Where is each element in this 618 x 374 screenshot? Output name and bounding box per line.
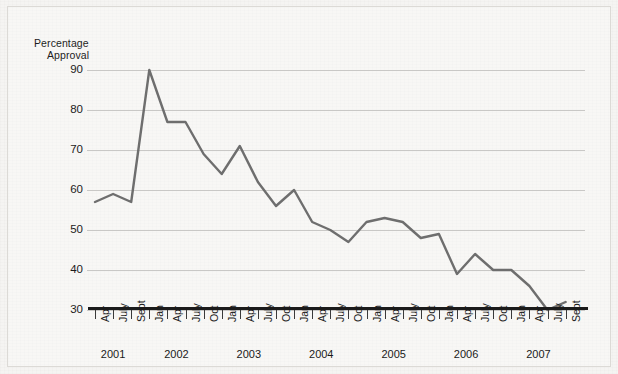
x-axis-label: Jan xyxy=(371,305,383,322)
x-axis-tick xyxy=(367,310,368,319)
x-axis-label: Apr xyxy=(99,306,111,322)
x-axis-label: July xyxy=(117,303,129,322)
x-axis-label: July xyxy=(190,303,202,322)
x-axis-tick xyxy=(385,310,386,319)
x-axis-label: July xyxy=(407,303,419,322)
x-axis-label: Oct xyxy=(497,306,509,322)
y-axis-label: 90 xyxy=(43,63,83,75)
year-label: 2005 xyxy=(381,348,405,360)
x-axis-tick xyxy=(131,310,132,319)
y-axis-label: 80 xyxy=(43,103,83,115)
x-axis-tick xyxy=(95,310,96,319)
x-axis-label: Jan xyxy=(226,305,238,322)
x-axis-tick xyxy=(511,310,512,319)
x-axis-label: Oct xyxy=(208,306,220,322)
x-axis-label: Apr xyxy=(533,306,545,322)
x-axis-label: Oct xyxy=(280,306,292,322)
y-axis-label: 40 xyxy=(43,263,83,275)
x-axis-label: Apr xyxy=(316,306,328,322)
y-axis-tick xyxy=(87,110,95,111)
x-axis-label: July xyxy=(479,303,491,322)
approval-line xyxy=(95,70,566,310)
x-axis-tick xyxy=(457,310,458,319)
x-axis-label: Jan xyxy=(443,305,455,322)
x-axis-tick xyxy=(113,310,114,319)
x-axis-label: Sept xyxy=(135,300,147,322)
y-axis-title-line2: Approval xyxy=(34,49,89,62)
y-axis-title-line1: Percentage xyxy=(34,37,89,49)
y-axis-tick xyxy=(87,70,95,71)
x-axis-tick xyxy=(186,310,187,319)
x-axis-tick xyxy=(421,310,422,319)
x-axis-tick xyxy=(403,310,404,319)
x-axis-label: Oct xyxy=(352,306,364,322)
plot-area xyxy=(95,70,585,310)
x-axis-tick xyxy=(330,310,331,319)
chart-page: Percentage Approval 30405060708090 AprJu… xyxy=(0,0,618,374)
x-axis-tick xyxy=(276,310,277,319)
x-axis-tick xyxy=(204,310,205,319)
x-axis-tick xyxy=(312,310,313,319)
x-axis-tick xyxy=(439,310,440,319)
y-axis-label: 60 xyxy=(43,183,83,195)
x-axis-tick xyxy=(475,310,476,319)
y-axis-tick xyxy=(87,310,95,311)
year-label: 2004 xyxy=(309,348,333,360)
x-axis-tick xyxy=(548,310,549,319)
y-axis-label: 70 xyxy=(43,143,83,155)
x-axis-label: July xyxy=(334,303,346,322)
y-axis-tick xyxy=(87,150,95,151)
y-axis-tick xyxy=(87,230,95,231)
x-axis-label: Sept xyxy=(570,300,582,322)
year-label: 2007 xyxy=(526,348,550,360)
x-axis-tick xyxy=(566,310,567,319)
y-axis-label: 30 xyxy=(43,303,83,315)
x-axis-label: Jan xyxy=(153,305,165,322)
x-axis-label: Apr xyxy=(461,306,473,322)
x-axis-label: July xyxy=(262,303,274,322)
line-series xyxy=(95,70,605,330)
year-label: 2001 xyxy=(101,348,125,360)
x-axis-label: Oct xyxy=(425,306,437,322)
y-axis-label: 50 xyxy=(43,223,83,235)
x-axis-label: Apr xyxy=(244,306,256,322)
year-label: 2006 xyxy=(454,348,478,360)
x-axis-label: Jan xyxy=(515,305,527,322)
x-axis-label: Jan xyxy=(298,305,310,322)
x-axis-tick xyxy=(348,310,349,319)
year-label: 2003 xyxy=(237,348,261,360)
x-axis-label: Apr xyxy=(389,306,401,322)
x-axis-tick xyxy=(222,310,223,319)
x-axis-label: July xyxy=(552,303,564,322)
x-axis-tick xyxy=(149,310,150,319)
x-axis-tick xyxy=(529,310,530,319)
x-axis-tick xyxy=(294,310,295,319)
x-axis-tick xyxy=(240,310,241,319)
y-axis-tick xyxy=(87,190,95,191)
x-axis-tick xyxy=(493,310,494,319)
y-axis-tick xyxy=(87,270,95,271)
x-axis-tick xyxy=(167,310,168,319)
x-axis-label: Apr xyxy=(171,306,183,322)
x-axis-tick xyxy=(258,310,259,319)
year-label: 2002 xyxy=(164,348,188,360)
